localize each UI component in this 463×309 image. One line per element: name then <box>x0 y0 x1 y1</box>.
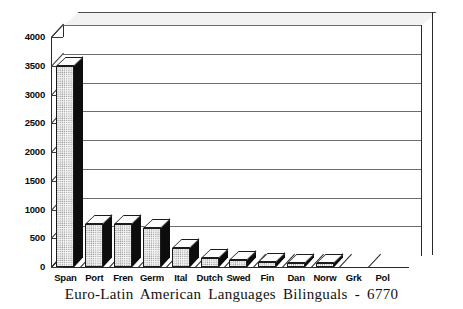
bar-front-face <box>172 248 190 267</box>
bar-front-face <box>143 228 161 267</box>
x-axis-label-germ: Germ <box>138 272 167 283</box>
bar-swed <box>229 248 247 267</box>
x-axis-label-fin: Fin <box>253 272 282 283</box>
x-axis-label-port: Port <box>80 272 109 283</box>
bar-front-face <box>201 258 219 267</box>
bar-ital <box>172 236 190 267</box>
bar-front-face <box>287 263 305 267</box>
right-wall-inner-edge <box>421 25 422 255</box>
bar-span <box>56 54 74 267</box>
bar-dan <box>287 251 305 267</box>
x-axis-label-norw: Norw <box>311 272 340 283</box>
bar-fren <box>114 212 132 267</box>
bar-front-face <box>258 262 276 267</box>
chart-figure: 05001000150020002500300035004000 SpanPor… <box>0 0 463 309</box>
bar-side-face <box>74 56 83 267</box>
bar-dutch <box>201 246 219 267</box>
gridline <box>63 54 421 55</box>
x-axis-label-fren: Fren <box>109 272 138 283</box>
x-axis-label-grk: Grk <box>339 272 368 283</box>
y-tick-mark <box>51 267 63 268</box>
bar-front-face <box>229 260 247 267</box>
x-axis-label-dutch: Dutch <box>195 272 224 283</box>
bar-port <box>85 212 103 267</box>
bar-front-face <box>85 224 103 267</box>
gridline <box>63 140 421 141</box>
y-axis-tick-label: 0 <box>11 261 45 272</box>
y-axis-tick-label: 3000 <box>11 89 45 100</box>
backwall-top-face <box>63 12 437 26</box>
x-axis-label-pol: Pol <box>368 272 397 283</box>
x-axis-label-swed: Swed <box>224 272 253 283</box>
gridline <box>63 25 421 26</box>
y-tick-mark <box>51 37 63 38</box>
right-wall-edge <box>432 12 433 255</box>
bar-germ <box>143 216 161 267</box>
x-axis-label-ital: Ital <box>166 272 195 283</box>
y-axis-tick-label: 2000 <box>11 146 45 157</box>
y-axis-tick-label: 3500 <box>11 60 45 71</box>
y-axis-tick-label: 1000 <box>11 204 45 215</box>
bar-norw <box>316 251 334 267</box>
gridline <box>63 169 421 170</box>
bar-fin <box>258 250 276 267</box>
y-axis-tick-label: 1500 <box>11 175 45 186</box>
x-axis-label-dan: Dan <box>282 272 311 283</box>
y-axis-tick-label: 4000 <box>11 31 45 42</box>
x-axis-label-span: Span <box>51 272 80 283</box>
gridline <box>63 83 421 84</box>
gridline <box>63 111 421 112</box>
bar-front-face <box>316 263 334 267</box>
y-axis-tick-label: 500 <box>11 232 45 243</box>
floor-front-edge <box>51 267 409 268</box>
gridline <box>63 198 421 199</box>
plot-area: 05001000150020002500300035004000 SpanPor… <box>0 0 463 309</box>
bar-front-face <box>114 224 132 267</box>
chart-title: Euro-Latin American Languages Bilinguals… <box>0 286 463 303</box>
y-axis-tick-label: 2500 <box>11 117 45 128</box>
bar-front-face <box>56 66 74 267</box>
